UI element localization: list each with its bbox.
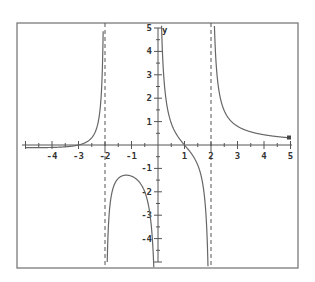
- function-curve-segment: [162, 26, 208, 267]
- x-tick-label: -1: [126, 151, 137, 161]
- y-tick-label: 4: [147, 46, 153, 56]
- x-tick-label: -4: [47, 151, 58, 161]
- x-axis-end-marker: [287, 136, 291, 140]
- x-tick-label: 3: [235, 151, 240, 161]
- function-plot: -4-3-2-11234554321-1-2-3-4 y: [0, 0, 315, 282]
- x-tick-label: 4: [261, 151, 267, 161]
- y-tick-label: 1: [147, 117, 152, 127]
- x-tick-label: -2: [100, 151, 111, 161]
- y-tick-label: 5: [147, 23, 152, 33]
- x-tick-label: 5: [288, 151, 293, 161]
- y-tick-label: 3: [147, 70, 152, 80]
- x-tick-label: 1: [182, 151, 187, 161]
- function-curve-segment: [26, 31, 104, 147]
- y-tick-label: 2: [147, 93, 152, 103]
- y-axis-label: y: [162, 25, 168, 35]
- y-tick-label: -4: [141, 234, 152, 244]
- y-tick-label: -1: [141, 163, 152, 173]
- function-curve-segment: [214, 26, 290, 138]
- x-tick-label: -3: [73, 151, 84, 161]
- x-tick-label: 2: [208, 151, 213, 161]
